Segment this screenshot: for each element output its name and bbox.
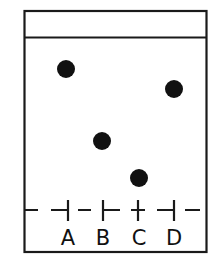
tlc-plate-diagram: A B C D [0,0,214,259]
plate-frame [25,11,207,252]
lane-label-b: B [96,226,110,250]
lane-label-d: D [166,226,182,250]
lane-label-a: A [61,226,76,250]
spot-b [93,132,111,150]
spot-d [165,80,183,98]
spot-a [57,60,75,78]
lane-label-c: C [132,226,147,250]
spot-c [130,169,148,187]
